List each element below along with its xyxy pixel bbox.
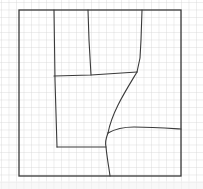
bottom-fade-strip (0, 181, 203, 189)
graph-paper-canvas (0, 0, 203, 189)
grid-background (0, 0, 203, 189)
diagram-svg (0, 0, 203, 189)
